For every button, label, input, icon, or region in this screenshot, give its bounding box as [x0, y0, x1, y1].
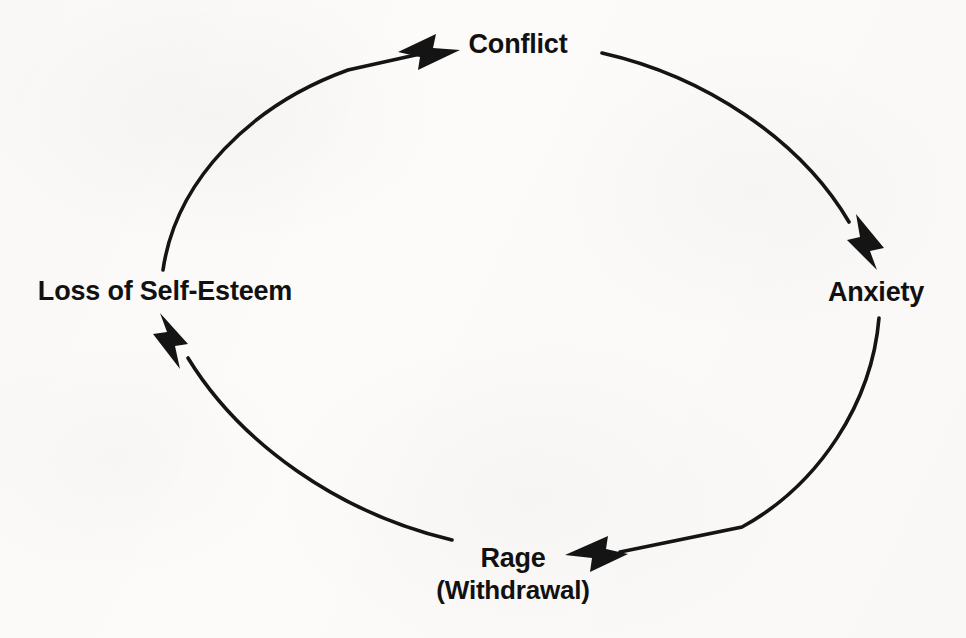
- edge-loss-to-conflict-arrowhead: [398, 34, 460, 70]
- node-label-anxiety: Anxiety: [828, 277, 924, 309]
- edge-conflict-to-anxiety: [602, 53, 884, 270]
- node-label-rage-sublabel: (Withdrawal): [436, 575, 589, 606]
- node-label-anxiety-text: Anxiety: [828, 277, 924, 307]
- edge-conflict-to-anxiety-arrowhead: [847, 214, 884, 270]
- edge-rage-to-loss-curve: [188, 358, 452, 540]
- edge-anxiety-to-rage: [565, 318, 879, 572]
- edge-loss-to-conflict: [163, 34, 460, 270]
- node-label-rage-text: Rage: [480, 543, 545, 573]
- node-label-conflict-text: Conflict: [469, 29, 568, 59]
- edge-rage-to-loss: [153, 313, 452, 540]
- edge-anxiety-to-rage-curve: [620, 318, 879, 552]
- edge-rage-to-loss-arrowhead: [153, 313, 188, 369]
- node-label-conflict: Conflict: [469, 29, 568, 61]
- diagram-page: Conflict Anxiety Rage (Withdrawal) Loss …: [0, 0, 966, 638]
- edge-loss-to-conflict-curve: [163, 54, 420, 270]
- node-label-loss-of-self-esteem-text: Loss of Self-Esteem: [38, 276, 292, 306]
- node-label-loss-of-self-esteem: Loss of Self-Esteem: [38, 276, 292, 308]
- node-label-rage: Rage (Withdrawal): [436, 543, 589, 606]
- edge-conflict-to-anxiety-curve: [602, 53, 849, 222]
